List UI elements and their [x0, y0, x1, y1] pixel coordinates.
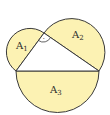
- lune-diagram: · A1 A2 A3: [0, 0, 110, 115]
- right-angle-dot: ·: [43, 34, 46, 43]
